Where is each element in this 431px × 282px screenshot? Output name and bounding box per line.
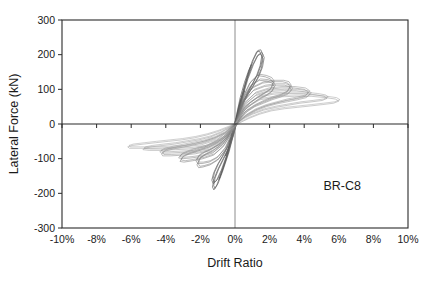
chart-figure: -300-200-1000100200300 -10%-8%-6%-4%-2%0…: [0, 0, 431, 282]
specimen-annotation: BR-C8: [324, 179, 362, 193]
y-axis-title: Lateral Force (kN): [7, 74, 21, 175]
x-tick-label: 8%: [366, 233, 381, 245]
y-tick-label: 200: [37, 48, 55, 60]
y-tick-label: -300: [34, 222, 55, 234]
y-tick-label: 0: [49, 118, 55, 130]
y-tick-label: 300: [37, 14, 55, 26]
x-tick-label: -8%: [87, 233, 106, 245]
x-tick-label: 0%: [227, 233, 242, 245]
x-tick-label: 2%: [262, 233, 277, 245]
y-tick-label: -100: [34, 152, 55, 164]
x-tick-label: 10%: [397, 233, 418, 245]
y-tick-label: -200: [34, 187, 55, 199]
x-tick-label: 4%: [297, 233, 312, 245]
x-tick-label: -4%: [156, 233, 175, 245]
x-tick-label: 6%: [331, 233, 346, 245]
x-tick-label: -2%: [191, 233, 210, 245]
x-axis-title: Drift Ratio: [207, 256, 263, 270]
hysteresis-chart-svg: -300-200-1000100200300 -10%-8%-6%-4%-2%0…: [0, 0, 431, 282]
y-tick-label: 100: [37, 83, 55, 95]
x-tick-label: -6%: [122, 233, 141, 245]
x-tick-label: -10%: [50, 233, 75, 245]
